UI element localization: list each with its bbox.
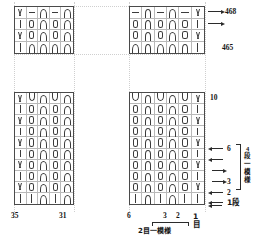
- grid-lower-left[interactable]: [14, 92, 74, 205]
- grid-upper-right[interactable]: [129, 6, 205, 54]
- stitch-cell[interactable]: [50, 104, 62, 115]
- stitch-cell[interactable]: [61, 149, 73, 160]
- stitch-cell[interactable]: [192, 93, 204, 104]
- stitch-cell[interactable]: [130, 42, 142, 54]
- grid-upper-left[interactable]: [14, 6, 74, 54]
- stitch-cell[interactable]: [38, 137, 50, 148]
- stitch-cell[interactable]: [61, 93, 73, 104]
- grid-lower-right[interactable]: [129, 92, 205, 205]
- stitch-cell[interactable]: [15, 137, 27, 148]
- stitch-cell[interactable]: [61, 171, 73, 182]
- stitch-cell[interactable]: [142, 171, 154, 182]
- stitch-cell[interactable]: [192, 160, 204, 171]
- stitch-cell[interactable]: [192, 126, 204, 137]
- stitch-cell[interactable]: [130, 93, 142, 104]
- stitch-cell[interactable]: [27, 42, 39, 54]
- stitch-cell[interactable]: [155, 137, 167, 148]
- stitch-cell[interactable]: [179, 42, 191, 54]
- stitch-cell[interactable]: [50, 182, 62, 193]
- stitch-cell[interactable]: [38, 160, 50, 171]
- stitch-cell[interactable]: [155, 115, 167, 126]
- stitch-cell[interactable]: [27, 7, 39, 19]
- stitch-cell[interactable]: [130, 7, 142, 19]
- stitch-cell[interactable]: [155, 42, 167, 54]
- stitch-cell[interactable]: [142, 137, 154, 148]
- stitch-cell[interactable]: [15, 93, 27, 104]
- stitch-cell[interactable]: [155, 126, 167, 137]
- stitch-cell[interactable]: [15, 42, 27, 54]
- stitch-cell[interactable]: [192, 171, 204, 182]
- stitch-cell[interactable]: [192, 193, 204, 204]
- stitch-cell[interactable]: [50, 126, 62, 137]
- stitch-cell[interactable]: [142, 104, 154, 115]
- stitch-cell[interactable]: [15, 115, 27, 126]
- stitch-cell[interactable]: [179, 19, 191, 31]
- stitch-cell[interactable]: [179, 137, 191, 148]
- stitch-cell[interactable]: [61, 19, 73, 31]
- stitch-cell[interactable]: [167, 126, 179, 137]
- stitch-cell[interactable]: [142, 149, 154, 160]
- stitch-cell[interactable]: [50, 137, 62, 148]
- stitch-cell[interactable]: [15, 149, 27, 160]
- stitch-cell[interactable]: [61, 193, 73, 204]
- stitch-cell[interactable]: [38, 93, 50, 104]
- stitch-cell[interactable]: [155, 30, 167, 42]
- stitch-cell[interactable]: [27, 93, 39, 104]
- stitch-cell[interactable]: [167, 104, 179, 115]
- stitch-cell[interactable]: [167, 182, 179, 193]
- stitch-cell[interactable]: [155, 19, 167, 31]
- stitch-cell[interactable]: [27, 115, 39, 126]
- stitch-cell[interactable]: [192, 30, 204, 42]
- stitch-cell[interactable]: [61, 104, 73, 115]
- stitch-cell[interactable]: [179, 115, 191, 126]
- stitch-cell[interactable]: [167, 115, 179, 126]
- stitch-cell[interactable]: [130, 115, 142, 126]
- stitch-cell[interactable]: [38, 104, 50, 115]
- stitch-cell[interactable]: [142, 182, 154, 193]
- stitch-cell[interactable]: [27, 171, 39, 182]
- stitch-cell[interactable]: [130, 149, 142, 160]
- stitch-cell[interactable]: [130, 171, 142, 182]
- stitch-cell[interactable]: [38, 182, 50, 193]
- stitch-cell[interactable]: [142, 42, 154, 54]
- stitch-cell[interactable]: [27, 182, 39, 193]
- stitch-cell[interactable]: [167, 19, 179, 31]
- stitch-cell[interactable]: [15, 104, 27, 115]
- stitch-cell[interactable]: [142, 193, 154, 204]
- stitch-cell[interactable]: [155, 171, 167, 182]
- stitch-cell[interactable]: [38, 193, 50, 204]
- stitch-cell[interactable]: [38, 126, 50, 137]
- stitch-cell[interactable]: [27, 30, 39, 42]
- stitch-cell[interactable]: [61, 182, 73, 193]
- stitch-cell[interactable]: [27, 104, 39, 115]
- stitch-cell[interactable]: [130, 160, 142, 171]
- stitch-cell[interactable]: [61, 115, 73, 126]
- stitch-cell[interactable]: [192, 149, 204, 160]
- stitch-cell[interactable]: [130, 19, 142, 31]
- stitch-cell[interactable]: [15, 160, 27, 171]
- stitch-cell[interactable]: [142, 93, 154, 104]
- stitch-cell[interactable]: [179, 160, 191, 171]
- stitch-cell[interactable]: [15, 193, 27, 204]
- stitch-cell[interactable]: [155, 104, 167, 115]
- stitch-cell[interactable]: [61, 30, 73, 42]
- stitch-cell[interactable]: [192, 104, 204, 115]
- stitch-cell[interactable]: [167, 171, 179, 182]
- stitch-cell[interactable]: [50, 93, 62, 104]
- stitch-cell[interactable]: [61, 160, 73, 171]
- stitch-cell[interactable]: [155, 149, 167, 160]
- stitch-cell[interactable]: [192, 115, 204, 126]
- stitch-cell[interactable]: [130, 104, 142, 115]
- stitch-cell[interactable]: [38, 149, 50, 160]
- stitch-cell[interactable]: [27, 126, 39, 137]
- stitch-cell[interactable]: [15, 19, 27, 31]
- stitch-cell[interactable]: [50, 160, 62, 171]
- stitch-cell[interactable]: [50, 42, 62, 54]
- stitch-cell[interactable]: [142, 115, 154, 126]
- stitch-cell[interactable]: [179, 171, 191, 182]
- stitch-cell[interactable]: [38, 42, 50, 54]
- stitch-cell[interactable]: [142, 19, 154, 31]
- stitch-cell[interactable]: [179, 104, 191, 115]
- stitch-cell[interactable]: [61, 7, 73, 19]
- stitch-cell[interactable]: [167, 137, 179, 148]
